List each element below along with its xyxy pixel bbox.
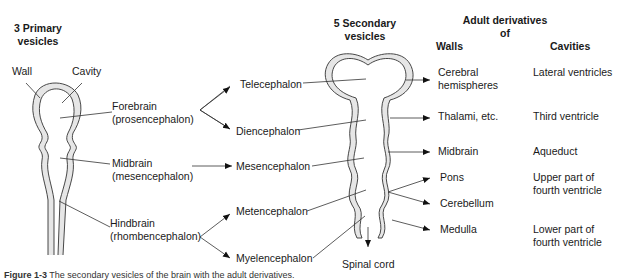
label-wall: Wall: [12, 65, 32, 78]
label-hindbrain: Hindbrain (rhombencephalon): [110, 217, 201, 243]
label-forebrain: Forebrain (prosencephalon): [112, 100, 194, 126]
header-secondary-line1: 5 Secondary: [330, 17, 400, 30]
label-midbrain: Midbrain (mesencephalon): [112, 157, 193, 183]
header-walls: Walls: [436, 40, 463, 53]
hindbrain-name: Hindbrain: [110, 217, 201, 230]
wall-thalami: Thalami, etc.: [438, 110, 498, 123]
midbrain-name: Midbrain: [112, 157, 193, 170]
wall-cerebral-line2: hemispheres: [438, 79, 498, 92]
header-secondary-line2: vesicles: [330, 30, 400, 43]
header-adult-derivatives: Adult derivatives of: [460, 14, 550, 40]
wall-pons: Pons: [440, 171, 464, 184]
header-adult-line1: Adult derivatives: [460, 14, 550, 27]
caption-figure-number: Figure 1-3: [4, 270, 47, 280]
midbrain-latin: (mesencephalon): [112, 170, 193, 183]
wall-midbrain: Midbrain: [438, 145, 478, 158]
label-telencephalon: Telecephalon: [240, 78, 302, 91]
forebrain-name: Forebrain: [112, 100, 194, 113]
hindbrain-latin: (rhombencephalon): [110, 230, 201, 243]
caption-text: The secondary vesicles of the brain with…: [49, 270, 294, 280]
label-spinal-cord: Spinal cord: [342, 258, 395, 271]
cavity-third-ventricle: Third ventricle: [533, 110, 599, 123]
diagram-artwork: [0, 0, 617, 280]
label-metencephalon: Metencephalon: [236, 205, 308, 218]
wall-cerebral-line1: Cerebral: [438, 66, 498, 79]
primary-vesicle-tube: [33, 83, 81, 255]
wall-cerebellum: Cerebellum: [440, 197, 494, 210]
header-cavities: Cavities: [550, 40, 590, 53]
wall-cerebral-hemispheres: Cerebral hemispheres: [438, 66, 498, 92]
cavity-upper-fourth-ventricle: Upper part of fourth ventricle: [533, 171, 602, 197]
upper-fourth-line1: Upper part of: [533, 171, 602, 184]
cavity-aqueduct: Aqueduct: [533, 145, 577, 158]
cavity-lateral-ventricles: Lateral ventricles: [533, 66, 612, 79]
label-cavity: Cavity: [72, 65, 101, 78]
wall-medulla: Medulla: [440, 223, 477, 236]
lower-fourth-line1: Lower part of: [533, 223, 602, 236]
secondary-vesicle-tube: [325, 54, 413, 238]
lower-fourth-line2: fourth ventricle: [533, 236, 602, 249]
label-mesencephalon: Mesencephalon: [236, 160, 310, 173]
label-diencephalon: Diencephalon: [236, 125, 300, 138]
header-secondary-vesicles: 5 Secondary vesicles: [330, 17, 400, 43]
wall-arrows: [388, 80, 430, 230]
figure-caption: Figure 1-3 The secondary vesicles of the…: [4, 270, 295, 280]
header-primary-line2: vesicles: [8, 35, 68, 48]
header-primary-vesicles: 3 Primary vesicles: [8, 22, 68, 48]
label-myelencephalon: Myelencephalon: [236, 252, 312, 265]
cavity-lower-fourth-ventricle: Lower part of fourth ventricle: [533, 223, 602, 249]
upper-fourth-line2: fourth ventricle: [533, 184, 602, 197]
forebrain-latin: (prosencephalon): [112, 113, 194, 126]
header-primary-line1: 3 Primary: [8, 22, 68, 35]
header-adult-line2: of: [460, 27, 550, 40]
